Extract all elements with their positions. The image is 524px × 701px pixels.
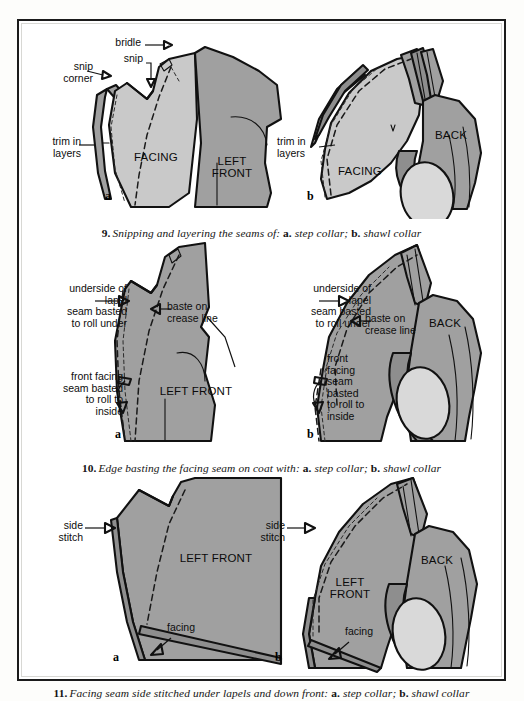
figure-11-leaders xyxy=(19,476,504,677)
part-back-11b: BACK xyxy=(409,554,465,566)
figure-9-caption-b-value: shawl collar xyxy=(363,227,421,239)
figure-11-artwork: side stitch facing side stitch facing a … xyxy=(19,476,504,677)
figure-11-caption-b-value: shawl collar xyxy=(412,687,470,699)
figure-9-sub-b: b xyxy=(307,189,314,204)
figure-11-number: 11. xyxy=(54,687,68,699)
figure-9-caption-a-value: step collar; xyxy=(295,227,348,239)
figure-11-caption-a-key: a. xyxy=(331,687,340,699)
part-back-9b: BACK xyxy=(423,129,479,141)
figure-10-caption: 10.Edge basting the facing seam on coat … xyxy=(19,462,504,474)
figure-11-caption: 11.Facing seam side stitched under lapel… xyxy=(19,687,504,699)
figure-10-caption-b-key: b. xyxy=(371,462,380,474)
figure-10-leaders xyxy=(19,241,504,452)
part-left-front-11b: LEFT FRONT xyxy=(315,576,385,601)
figure-9-number: 9. xyxy=(102,227,111,239)
figure-10-number: 10. xyxy=(82,462,97,474)
figure-11-panel: side stitch facing side stitch facing a … xyxy=(19,476,504,701)
figure-9-leaders xyxy=(19,23,504,219)
part-left-front-9a: LEFT FRONT xyxy=(199,155,265,180)
part-left-front-11a: LEFT FRONT xyxy=(161,552,271,564)
figure-9-caption-b-key: b. xyxy=(351,227,360,239)
figure-10-sub-b: b xyxy=(307,427,314,442)
figure-11-sub-a: a xyxy=(113,650,119,665)
figure-9-artwork: bridle snip snip corner trim in layers t… xyxy=(19,23,504,217)
figure-11-caption-text: Facing seam side stitched under lapels a… xyxy=(70,687,329,699)
figure-9-caption: 9.Snipping and layering the seams of: a.… xyxy=(19,227,504,239)
figure-10-caption-a-key: a. xyxy=(303,462,312,474)
part-back-10b: BACK xyxy=(417,317,473,329)
part-left-front-10a: LEFT FRONT xyxy=(141,385,251,397)
figure-10-artwork: underside of lapel seam basted to roll u… xyxy=(19,241,504,452)
figure-11-sub-b: b xyxy=(275,650,282,665)
figure-9-panel: bridle snip snip corner trim in layers t… xyxy=(19,23,504,241)
figure-10-caption-a-value: step collar; xyxy=(314,462,367,474)
page-frame: bridle snip snip corner trim in layers t… xyxy=(17,19,506,681)
figure-9-sub-a: a xyxy=(105,189,111,204)
figure-9-caption-text: Snipping and layering the seams of: xyxy=(112,227,280,239)
figure-10-caption-b-value: shawl collar xyxy=(383,462,441,474)
figure-10-caption-text: Edge basting the facing seam on coat wit… xyxy=(99,462,300,474)
part-facing-9b: FACING xyxy=(325,165,395,177)
figure-10-sub-a: a xyxy=(115,427,121,442)
figure-9-caption-a-key: a. xyxy=(283,227,292,239)
figure-10-panel: underside of lapel seam basted to roll u… xyxy=(19,241,504,476)
figure-11-caption-a-value: step collar; xyxy=(343,687,396,699)
part-facing-9a: FACING xyxy=(119,151,193,163)
figure-11-caption-b-key: b. xyxy=(399,687,408,699)
